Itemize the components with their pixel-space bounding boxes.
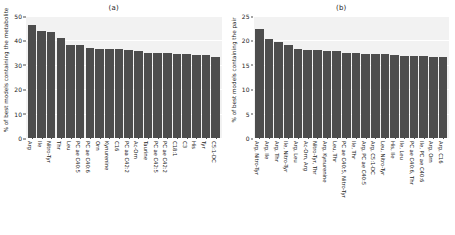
x-tick: Arg, C16 (439, 139, 448, 233)
bar (57, 38, 66, 138)
bar (95, 49, 104, 138)
panel-a-title: (a) (0, 4, 228, 12)
x-tick-mark (196, 137, 197, 140)
x-tick-mark (433, 137, 434, 140)
x-tick-label: Arg, Kynurenine (322, 141, 327, 182)
bar (381, 54, 390, 138)
x-tick-label: Arg, Orn (428, 141, 433, 163)
y-tick-label: 15 (228, 61, 250, 68)
x-tick-label: Tyr (201, 141, 206, 149)
panel-b-x-ticks: Arg, Nitro-TyrArg, IleArg, ThrIle, Nitro… (254, 139, 450, 233)
x-tick-label: Arg, Leu (293, 141, 298, 163)
bar (400, 56, 409, 138)
x-tick-label: C16 (114, 141, 119, 151)
bar (134, 51, 143, 138)
x-tick-mark (129, 137, 130, 140)
x-tick-mark (308, 137, 309, 140)
x-tick: Taurine (144, 139, 153, 233)
x-tick-mark (317, 137, 318, 140)
x-tick: Thr (57, 139, 66, 233)
x-tick-mark (119, 137, 120, 140)
x-tick: Kynurenine (105, 139, 114, 233)
bar (303, 50, 312, 138)
x-tick-label: C5:1-DC (210, 141, 215, 163)
x-tick: PC ae C40:6 (86, 139, 95, 233)
x-tick: Arg, Thr (274, 139, 283, 233)
bar (352, 53, 361, 138)
x-tick-mark (109, 137, 110, 140)
x-tick-label: Taurine (143, 141, 148, 160)
x-tick: His (192, 139, 201, 233)
x-tick: Arg, Nitro-Tyr (255, 139, 264, 233)
x-tick-label: Arg, C16 (438, 141, 443, 163)
panel-b-bar-series (254, 16, 450, 138)
x-tick-mark (366, 137, 367, 140)
bar (192, 55, 201, 138)
x-tick: Nitro-Tyr (47, 139, 56, 233)
y-tick-label: 10 (228, 86, 250, 93)
x-tick-mark (148, 137, 149, 140)
x-tick-mark (298, 137, 299, 140)
x-tick: Ile, Thr (352, 139, 361, 233)
x-tick-label: Kynurenine (104, 141, 109, 170)
panel-b-y-ticks: 25 20 15 10 5 0 (228, 16, 254, 138)
x-tick: Ac-Orn (134, 139, 143, 233)
x-tick-mark (216, 137, 217, 140)
panel-a-plot (26, 16, 222, 138)
x-tick: Ile, Leu (400, 139, 409, 233)
x-tick-label: Arg, C5:1-DC (370, 141, 375, 175)
y-tick-label: 20 (228, 37, 250, 44)
panel-a-bar-series (26, 16, 222, 138)
bar (76, 45, 85, 138)
x-tick-label: Orn (94, 141, 99, 150)
x-tick-mark (327, 137, 328, 140)
x-tick-mark (80, 137, 81, 140)
bar (419, 56, 428, 138)
figure-container: (a) % of best models containing the meta… (0, 0, 455, 235)
x-tick-label: Ile, Thr (351, 141, 356, 159)
x-tick: Ile, Nitro-Tyr (284, 139, 293, 233)
x-tick: Arg (28, 139, 37, 233)
bar (410, 56, 419, 138)
x-tick-mark (158, 137, 159, 140)
bar (28, 25, 37, 138)
x-tick-label: C3 (181, 141, 186, 148)
x-tick-mark (269, 137, 270, 140)
x-tick-label: PC ae C40:5 (75, 141, 80, 173)
x-tick: C3 (182, 139, 191, 233)
x-tick-label: Ac-Orn, Arg (302, 141, 307, 171)
panel-b-title: (b) (228, 4, 455, 12)
x-tick-label: Arg, Ile (264, 141, 269, 159)
y-tick-label: 40 (0, 37, 22, 44)
panel-b-plot (254, 16, 450, 138)
x-tick: Arg, Leu (294, 139, 303, 233)
panel-a-x-ticks: ArgIleNitro-TyrThrLeuPC ae C40:5PC ae C4… (26, 139, 222, 233)
x-tick-label: PC ae C40:6, Thr (409, 141, 414, 185)
x-tick: PC ae C40:5, Nitro-Tyr (342, 139, 351, 233)
x-tick-mark (279, 137, 280, 140)
x-tick-mark (206, 137, 207, 140)
bar (37, 31, 46, 138)
x-tick: Arg, Ile (265, 139, 274, 233)
y-tick-label: 0 (0, 135, 22, 142)
y-tick-label: 0 (228, 135, 250, 142)
x-tick-mark (346, 137, 347, 140)
y-tick-label: 10 (0, 110, 22, 117)
bar (342, 53, 351, 138)
x-tick: Ac-Orn, Arg (303, 139, 312, 233)
x-tick-mark (259, 137, 260, 140)
x-tick-label: Thr (56, 141, 61, 150)
bar (371, 54, 380, 138)
x-tick: Tyr (202, 139, 211, 233)
bar (163, 53, 172, 138)
panel-b-plot-area (254, 16, 450, 138)
bar (390, 55, 399, 138)
bar (429, 57, 438, 138)
x-tick-label: Nitro-Tyr, Thr (312, 141, 317, 175)
x-tick-mark (138, 137, 139, 140)
bar (153, 53, 162, 138)
panel-a-plot-area (26, 16, 222, 138)
x-tick: Arg, C5:1-DC (371, 139, 380, 233)
y-tick-label: 5 (228, 110, 250, 117)
x-tick-mark (288, 137, 289, 140)
